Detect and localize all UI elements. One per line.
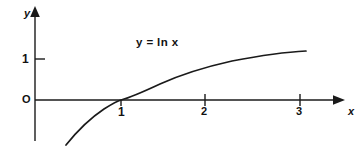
plot-area [0,0,363,147]
x-axis-arrow-icon [333,95,345,105]
x-tick-label-2: 2 [201,106,207,117]
x-tick-label-1: 1 [118,106,125,118]
ln-function-figure: y x O 1 1 2 3 y = ln x [0,0,363,147]
y-axis-arrow-icon [30,6,40,17]
y-tick-label-1: 1 [22,53,29,65]
x-tick-label-3: 3 [296,106,302,117]
origin-label: O [22,94,31,105]
x-axis-label: x [348,106,354,117]
y-axis-label: y [24,8,30,19]
ln-curve [66,51,306,145]
equation-annotation: y = ln x [136,37,179,49]
